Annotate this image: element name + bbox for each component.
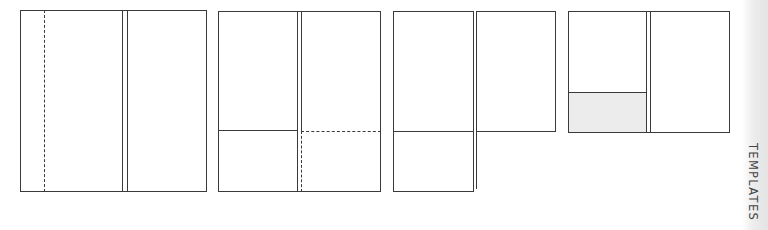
- template-1-spine-left: [122, 10, 123, 192]
- side-tab-label: TEMPLATES: [746, 143, 760, 221]
- template-4-spine-left: [646, 11, 647, 133]
- template-2: [218, 11, 381, 192]
- template-3-right-panel: [476, 11, 556, 132]
- template-3-left-panel: [393, 11, 474, 192]
- template-4-shaded-pocket: [569, 93, 646, 132]
- template-3-pocket-line: [393, 131, 474, 132]
- template-1-spine-right: [127, 10, 128, 192]
- template-2-spine-left: [297, 11, 298, 192]
- template-2-left-pocket-line: [218, 130, 298, 131]
- template-1-fold-line: [44, 10, 45, 192]
- template-1: [20, 10, 207, 192]
- template-4-pocket-line: [568, 92, 646, 93]
- template-4-spine-right: [650, 11, 651, 133]
- template-2-right-pocket-line: [301, 131, 381, 132]
- template-2-pocket-fold: [301, 131, 302, 192]
- template-2-spine-right: [301, 11, 302, 131]
